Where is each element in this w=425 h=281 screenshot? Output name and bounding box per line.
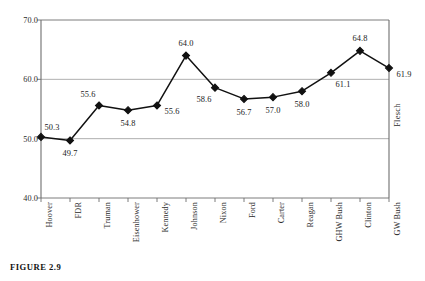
figure-2-9: 70.060.050.040.0 HooverFDRTrumanEisenhow… [0, 0, 425, 281]
x-axis-tick-label-reagan: Reagan [306, 202, 315, 227]
data-value-label: 56.7 [236, 107, 251, 116]
data-value-label: 61.9 [396, 70, 411, 79]
data-value-label: 54.8 [120, 119, 135, 128]
x-axis-tick-label-ford: Ford [248, 202, 257, 218]
x-axis-tick-label-nixon: Nixon [219, 202, 228, 223]
data-value-label: 57.0 [265, 106, 280, 115]
data-value-label: 64.8 [352, 33, 367, 42]
x-axis-tick-label-truman: Truman [103, 202, 112, 229]
data-value-label: 61.1 [335, 79, 350, 88]
x-axis-tick-label-carter: Carter [277, 202, 286, 223]
data-value-label: 55.6 [80, 90, 95, 99]
data-value-label: 64.0 [178, 38, 193, 47]
figure-caption: FIGURE 2.9 [10, 262, 61, 272]
x-axis-tick-label-gw-bush: GW Bush [393, 202, 402, 235]
x-axis-tick-label-kennedy: Kennedy [161, 202, 170, 233]
data-value-label: 49.7 [62, 149, 77, 158]
x-axis-tick-label-hoover: Hoover [45, 202, 54, 227]
series-name-flesch: Flesch [393, 103, 402, 127]
data-value-label: 58.6 [196, 94, 211, 103]
line-chart: 70.060.050.040.0 HooverFDRTrumanEisenhow… [0, 0, 425, 255]
x-axis-tick-label-ghw-bush: GHW Bush [335, 202, 344, 242]
x-axis-tick-label-fdr: FDR [74, 202, 83, 218]
x-axis-tick-label-eisenhower: Eisenhower [132, 202, 141, 242]
data-value-label: 58.0 [294, 100, 309, 109]
data-value-label: 50.3 [44, 122, 59, 131]
x-axis-tick-label-johnson: Johnson [190, 202, 199, 230]
data-value-label: 55.6 [164, 107, 179, 116]
x-axis-tick-label-clinton: Clinton [364, 202, 373, 228]
